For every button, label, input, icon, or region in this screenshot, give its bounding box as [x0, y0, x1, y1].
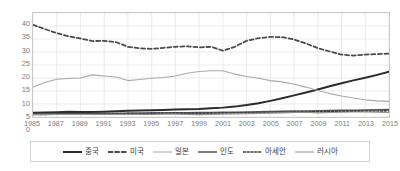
x-axis-tick-label: 2007	[287, 120, 303, 127]
legend-label: 중국	[85, 148, 99, 156]
legend-label: 러시아	[317, 148, 338, 156]
chart-legend: 중국미국일본인도아세안러시아	[30, 141, 370, 162]
legend-item-인도[interactable]: 인도	[198, 148, 234, 156]
legend-item-아세안[interactable]: 아세안	[243, 148, 286, 156]
x-axis-tick-label: 1985	[24, 120, 40, 127]
plot-area	[32, 12, 390, 118]
x-axis-tick-label: 2009	[310, 120, 326, 127]
y-axis-tick-label: 35	[4, 33, 30, 41]
y-axis-tick-label: 15	[4, 86, 30, 94]
x-axis-tick-label: 1995	[143, 120, 159, 127]
y-axis-tick-label: 20	[4, 73, 30, 81]
legend-label: 인도	[220, 148, 234, 156]
x-axis-tick-label: 2013	[358, 120, 374, 127]
legend-item-미국[interactable]: 미국	[108, 148, 144, 156]
series-canvas	[33, 13, 389, 117]
y-axis: 4035302520151050	[0, 12, 30, 118]
series-line-일본	[33, 71, 389, 102]
series-line-미국	[33, 25, 389, 56]
legend-item-일본[interactable]: 일본	[153, 148, 189, 156]
x-axis: 1985198719891991199319951997199920012003…	[32, 120, 390, 132]
x-axis-tick-label: 1987	[48, 120, 64, 127]
legend-label: 일본	[175, 148, 189, 156]
legend-swatch-중국	[63, 148, 82, 156]
x-axis-tick-label: 2001	[215, 120, 231, 127]
y-axis-tick-label: 25	[4, 60, 30, 68]
x-axis-tick-label: 2003	[239, 120, 255, 127]
legend-label: 아세안	[265, 148, 286, 156]
x-axis-tick-label: 2015	[382, 120, 398, 127]
x-axis-tick-label: 2005	[263, 120, 279, 127]
legend-item-러시아[interactable]: 러시아	[295, 148, 338, 156]
y-axis-tick-label: 10	[4, 100, 30, 108]
x-axis-tick-label: 1997	[167, 120, 183, 127]
x-axis-tick-label: 1993	[119, 120, 135, 127]
legend-swatch-미국	[108, 148, 127, 156]
y-axis-tick-label: 30	[4, 47, 30, 55]
x-axis-tick-label: 2011	[335, 120, 350, 127]
line-chart: 4035302520151050 19851987198919911993199…	[0, 0, 400, 171]
x-axis-tick-label: 1989	[72, 120, 88, 127]
legend-swatch-일본	[153, 148, 172, 156]
legend-item-중국[interactable]: 중국	[63, 148, 99, 156]
legend-label: 미국	[130, 148, 144, 156]
legend-swatch-러시아	[295, 148, 314, 156]
x-axis-tick-label: 1991	[96, 120, 112, 127]
y-axis-tick-label: 40	[4, 20, 30, 28]
legend-swatch-아세안	[243, 148, 262, 156]
x-axis-tick-label: 1999	[191, 120, 207, 127]
legend-swatch-인도	[198, 148, 217, 156]
